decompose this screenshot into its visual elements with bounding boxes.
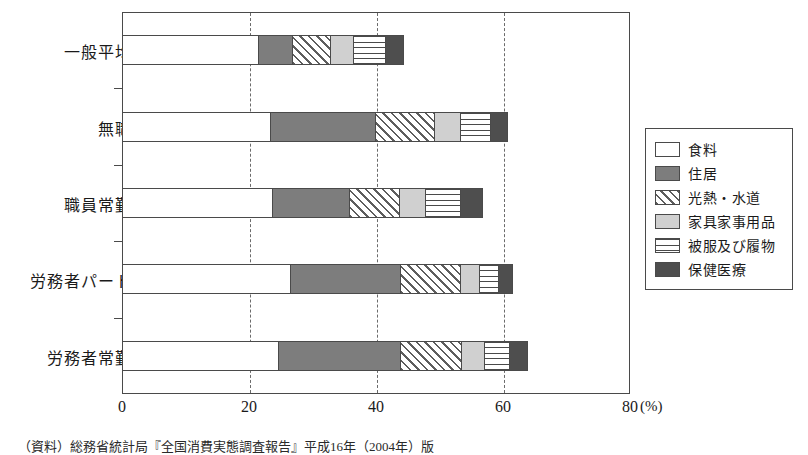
stacked-bar xyxy=(122,112,508,142)
bar-segment-hifuku xyxy=(353,35,385,65)
bar-segment-jukyo xyxy=(272,188,349,218)
stacked-bar xyxy=(122,264,513,294)
bar-segment-kagu xyxy=(399,188,425,218)
bar-segment-hifuku xyxy=(460,112,489,142)
category-label: 一般平均 xyxy=(0,39,132,63)
bar-segment-hifuku xyxy=(479,264,498,294)
source-caption: （資料）総務省統計局『全国消費実態調査報告』平成16年（2004年）版 xyxy=(18,436,434,455)
legend-label: 光熱・水道 xyxy=(688,187,761,207)
bar-segment-jukyo xyxy=(258,35,292,65)
bar-segment-konetsu xyxy=(400,341,461,371)
bar-segment-konetsu xyxy=(292,35,330,65)
x-tick-label-60: 60 xyxy=(495,398,511,416)
bar-row: 一般平均 xyxy=(0,12,808,88)
bar-segment-hoken xyxy=(490,112,508,142)
x-tick-label-80: 80 xyxy=(622,398,638,416)
legend-label: 保健医療 xyxy=(688,259,746,279)
legend-item: 住居 xyxy=(655,161,784,185)
legend-item: 家具家事用品 xyxy=(655,209,784,233)
bar-segment-shokuryo xyxy=(122,35,258,65)
legend-swatch-icon xyxy=(655,214,680,229)
category-label: 労務者パート xyxy=(0,268,132,292)
legend-swatch-icon xyxy=(655,166,680,181)
x-tick-label-20: 20 xyxy=(241,398,257,416)
stacked-bar xyxy=(122,341,528,371)
bar-segment-jukyo xyxy=(270,112,375,142)
category-label: 労務者常勤 xyxy=(0,345,132,369)
legend-label: 住居 xyxy=(688,163,717,183)
bar-row: 労務者常勤 xyxy=(0,318,808,394)
bar-segment-hoken xyxy=(460,188,483,218)
legend-item: 光熱・水道 xyxy=(655,185,784,209)
bar-segment-hifuku xyxy=(484,341,509,371)
bar-segment-shokuryo xyxy=(122,188,272,218)
bar-segment-shokuryo xyxy=(122,264,290,294)
legend-label: 家具家事用品 xyxy=(688,211,775,231)
bar-segment-shokuryo xyxy=(122,341,278,371)
legend-item: 被服及び履物 xyxy=(655,233,784,257)
legend-item: 保健医療 xyxy=(655,257,784,281)
legend-label: 被服及び履物 xyxy=(688,235,775,255)
bar-segment-shokuryo xyxy=(122,112,270,142)
category-label: 職員常勤 xyxy=(0,192,132,216)
bar-segment-kagu xyxy=(330,35,353,65)
bar-segment-konetsu xyxy=(375,112,435,142)
legend-label: 食料 xyxy=(688,139,717,159)
bar-segment-jukyo xyxy=(290,264,400,294)
legend-swatch-icon xyxy=(655,238,680,253)
bar-segment-hoken xyxy=(385,35,404,65)
bar-segment-jukyo xyxy=(278,341,400,371)
x-tick-label-40: 40 xyxy=(368,398,384,416)
stacked-bar xyxy=(122,188,483,218)
bar-segment-konetsu xyxy=(400,264,460,294)
legend-item: 食料 xyxy=(655,137,784,161)
legend-swatch-icon xyxy=(655,262,680,277)
bar-segment-hoken xyxy=(498,264,513,294)
stacked-bar xyxy=(122,35,404,65)
legend-swatch-icon xyxy=(655,142,680,157)
bar-segment-hoken xyxy=(509,341,527,371)
bar-segment-hifuku xyxy=(425,188,460,218)
chart-legend: 食料住居光熱・水道家具家事用品被服及び履物保健医療 xyxy=(645,128,793,290)
x-tick-label-0: 0 xyxy=(118,398,126,416)
bar-segment-kagu xyxy=(434,112,460,142)
category-label: 無職 xyxy=(0,116,132,140)
legend-swatch-icon xyxy=(655,190,680,205)
x-axis-unit-label: (%) xyxy=(640,398,663,415)
bar-segment-konetsu xyxy=(349,188,399,218)
bar-segment-kagu xyxy=(461,341,484,371)
bar-segment-kagu xyxy=(460,264,479,294)
